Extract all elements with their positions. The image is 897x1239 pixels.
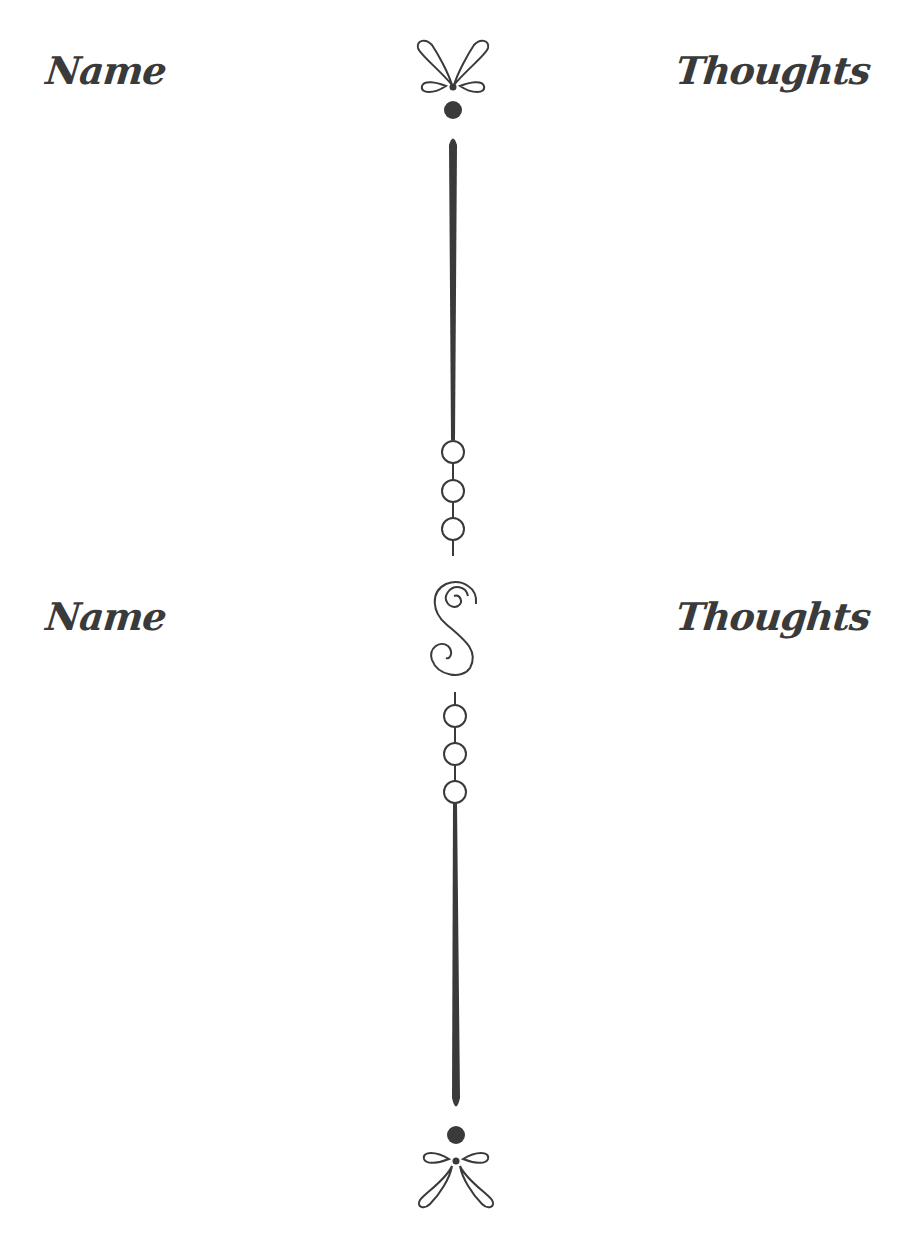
- bottom-divider-line: [452, 803, 460, 1107]
- bottom-beads-icon: [444, 692, 466, 803]
- top-divider-line: [449, 139, 457, 441]
- center-divider-ornament: [0, 0, 897, 1239]
- swirl-s-icon: [431, 582, 476, 675]
- top-flourish-bow-icon: [418, 41, 489, 119]
- bottom-flourish-bow-icon: [419, 1126, 493, 1207]
- top-beads-icon: [442, 441, 464, 556]
